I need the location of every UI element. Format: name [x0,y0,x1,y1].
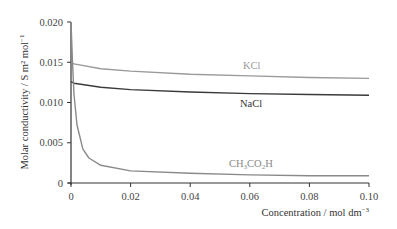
label-nacl: NaCl [240,98,262,109]
series-line-2 [71,22,369,176]
x-tick-label: 0 [68,191,73,202]
y-tick-label: 0.005 [39,137,63,148]
series-line-0 [71,62,369,78]
label-kcl: KCl [243,60,261,71]
x-tick-label: 0.08 [300,191,318,202]
y-axis-label: Molar conductivity / S m² mol−1 [18,34,30,170]
x-tick-label: 0.10 [360,191,378,202]
series-line-1 [71,82,369,96]
label-acetic: CH3CO2H [229,158,273,171]
y-tick-label: 0.015 [39,57,63,68]
axes [67,22,369,187]
x-tick-label: 0.06 [241,191,259,202]
x-tick-label: 0.04 [181,191,200,202]
x-axis-label: Concentration / mol dm−3 [262,206,370,218]
y-tick-label: 0 [58,178,63,189]
series-lines [71,22,369,176]
y-tick-label: 0.020 [39,17,63,28]
x-tick-label: 0.02 [121,191,139,202]
molar-conductivity-chart: 00.0050.0100.0150.02000.020.040.060.080.… [0,0,397,229]
y-tick-label: 0.010 [39,97,63,108]
